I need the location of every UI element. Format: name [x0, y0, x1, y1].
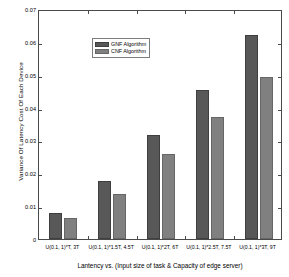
y-axis-tick-label: 0.01	[2, 204, 36, 210]
bar	[98, 181, 111, 239]
y-axis-tick-mark	[278, 44, 281, 45]
y-axis-tick-mark	[278, 208, 281, 209]
x-axis-tick-mark	[185, 11, 186, 14]
x-axis-tick-mark	[234, 236, 235, 239]
y-axis-tick-mark	[39, 208, 42, 209]
bar	[147, 135, 160, 239]
y-axis-tick-mark	[39, 77, 42, 78]
x-axis-tick-mark	[137, 236, 138, 239]
legend-item-gnf: GNF Algorithm	[95, 41, 146, 48]
x-axis-tick-mark	[88, 236, 89, 239]
bar	[211, 117, 224, 239]
y-axis-tick-mark	[278, 110, 281, 111]
y-axis-tick-mark	[278, 142, 281, 143]
x-axis-tick-mark	[137, 11, 138, 14]
x-axis-tick-mark	[185, 236, 186, 239]
x-axis-tick-label: U(0.1, 1)*2T, 6T	[142, 244, 179, 250]
x-axis-tick-label: U(0.1, 1)*3T, 9T	[239, 244, 276, 250]
plot-area: GNF Algorithm CNF Algorithm	[38, 10, 282, 240]
y-axis-tick-label: 0.03	[2, 138, 36, 144]
y-axis-tick-mark	[39, 44, 42, 45]
y-axis-tick-label: 0.07	[2, 7, 36, 13]
legend-swatch-gnf	[95, 42, 109, 47]
y-axis-tick-label: 0	[2, 237, 36, 243]
bar	[260, 77, 273, 239]
y-axis-tick-mark	[278, 175, 281, 176]
x-axis-tick-label: U(0.1, 1)*T, 3T	[46, 244, 80, 250]
y-axis-tick-mark	[39, 175, 42, 176]
y-axis-tick-mark	[39, 142, 42, 143]
plot-inner	[39, 11, 281, 239]
chart-legend: GNF Algorithm CNF Algorithm	[92, 38, 150, 58]
x-axis-tick-mark	[234, 11, 235, 14]
y-axis-tick-mark	[39, 110, 42, 111]
x-axis-title: Lantency vs. (Input size of task & Capac…	[38, 262, 282, 269]
bar	[113, 194, 126, 239]
y-axis-tick-mark	[278, 77, 281, 78]
y-axis-tick-label: 0.04	[2, 106, 36, 112]
bar	[64, 218, 77, 239]
bar	[196, 90, 209, 240]
legend-label-gnf: GNF Algorithm	[111, 41, 146, 48]
legend-label-cnf: CNF Algorithm	[111, 48, 146, 55]
bar	[49, 213, 62, 239]
y-axis-title: Variance Of Latency Cost Of Each Device	[17, 22, 24, 222]
y-axis-tick-label: 0.06	[2, 40, 36, 46]
legend-swatch-cnf	[95, 49, 109, 54]
x-axis-tick-label: U(0.1, 1)*1.5T, 4.5T	[89, 244, 134, 250]
bar	[162, 154, 175, 239]
x-axis-tick-mark	[88, 11, 89, 14]
y-axis-tick-label: 0.05	[2, 73, 36, 79]
x-axis-tick-label: U(0.1, 1)*2.5T, 7.5T	[186, 244, 231, 250]
bar	[245, 35, 258, 239]
y-axis-tick-label: 0.02	[2, 171, 36, 177]
chart-figure: Variance Of Latency Cost Of Each Device …	[0, 0, 289, 277]
legend-item-cnf: CNF Algorithm	[95, 48, 146, 55]
